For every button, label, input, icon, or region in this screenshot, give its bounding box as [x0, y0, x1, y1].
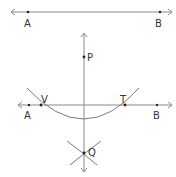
- top-line-ab: A B: [11, 9, 172, 29]
- label-a-top: A: [24, 18, 31, 29]
- point-a-top: [27, 11, 30, 14]
- point-b-top: [159, 11, 162, 14]
- label-b-lower: B: [153, 110, 160, 121]
- point-p: [83, 56, 86, 59]
- geometry-diagram: A B P V T A B Q: [0, 0, 176, 177]
- label-q: Q: [88, 147, 96, 158]
- label-p: P: [87, 52, 93, 63]
- label-a-lower: A: [24, 110, 31, 121]
- label-t: T: [119, 94, 127, 105]
- label-b-top: B: [155, 18, 162, 29]
- point-b-lower: [156, 104, 158, 106]
- point-a-lower: [28, 104, 30, 106]
- label-v: V: [41, 94, 48, 105]
- point-q: [83, 152, 86, 155]
